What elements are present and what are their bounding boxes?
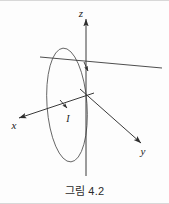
current-loop (43, 47, 91, 164)
figure-container: z x y I 그림 4.2 (0, 0, 169, 204)
x-axis-label: x (11, 119, 17, 131)
figure-caption: 그림 4.2 (0, 185, 169, 198)
y-axis (80, 89, 141, 143)
figure-diagram: z x y I (0, 0, 169, 204)
x-axis (19, 93, 94, 118)
frame-bottom-divider (0, 203, 169, 204)
y-axis-label: y (140, 145, 146, 157)
z-axis-label: z (78, 7, 84, 19)
current-label: I (65, 113, 70, 124)
diagonal-line (40, 57, 162, 68)
